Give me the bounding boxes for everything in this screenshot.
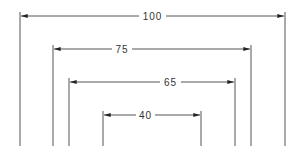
dimension-label: 100: [143, 11, 163, 22]
dimension-label: 75: [115, 44, 128, 55]
dimension-75: 75: [53, 44, 251, 147]
dimension-100: 100: [20, 11, 285, 147]
dimension-label: 40: [139, 110, 152, 121]
dimension-40: 40: [103, 110, 201, 147]
dimension-label: 65: [164, 77, 177, 88]
dimension-diagram: 100 75 65 40: [0, 0, 298, 155]
